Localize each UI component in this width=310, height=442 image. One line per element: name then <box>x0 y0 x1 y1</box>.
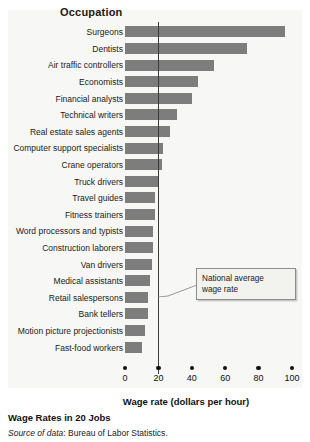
bar <box>125 43 247 54</box>
bar-category-label: Real estate sales agents <box>1 127 123 137</box>
bar-category-label: Crane operators <box>1 160 123 170</box>
bar <box>125 109 177 120</box>
bar-category-label: Technical writers <box>1 110 123 120</box>
bar-row: Fitness trainers <box>0 207 310 224</box>
bar <box>125 292 148 303</box>
bar <box>125 60 214 71</box>
x-axis-tick-dot <box>290 366 294 370</box>
bar-row: Fast-food workers <box>0 339 310 356</box>
bar-row: Dentists <box>0 41 310 58</box>
bar-row: Economists <box>0 74 310 91</box>
source-label: Source of data <box>8 428 63 438</box>
bar-row: Real estate sales agents <box>0 124 310 141</box>
bar-category-label: Computer support specialists <box>1 143 123 153</box>
bar-category-label: Air traffic controllers <box>1 60 123 70</box>
bar-row: Surgeons <box>0 24 310 41</box>
bar-category-label: Word processors and typists <box>1 226 123 236</box>
figure-source-note: Source of data: Bureau of Labor Statisti… <box>8 428 168 438</box>
bar <box>125 242 153 253</box>
bar-row: Word processors and typists <box>0 223 310 240</box>
bar-row: Travel guides <box>0 190 310 207</box>
bar <box>125 325 145 336</box>
x-axis-tick-dot <box>223 366 227 370</box>
bar <box>125 259 152 270</box>
callout-line-1: National average <box>202 273 290 284</box>
bar-category-label: Construction laborers <box>1 243 123 253</box>
x-axis-tick-label: 100 <box>277 373 307 383</box>
bar-category-label: Van drivers <box>1 260 123 270</box>
x-axis-tick-dot <box>256 366 260 370</box>
bar-category-label: Bank tellers <box>1 309 123 319</box>
bar <box>125 342 142 353</box>
bar-row: Technical writers <box>0 107 310 124</box>
bar <box>125 76 198 87</box>
bar-category-label: Economists <box>1 77 123 87</box>
bar-category-label: Medical assistants <box>1 276 123 286</box>
bar-category-label: Fast-food workers <box>1 343 123 353</box>
bar-rows-container: SurgeonsDentistsAir traffic controllersE… <box>0 24 310 356</box>
national-average-callout: National average wage rate <box>196 268 296 300</box>
bar-category-label: Retail salespersons <box>1 293 123 303</box>
source-text: : Bureau of Labor Statistics. <box>63 428 167 438</box>
bar-category-label: Dentists <box>1 44 123 54</box>
bar-category-label: Financial analysts <box>1 94 123 104</box>
callout-line-2: wage rate <box>202 284 290 295</box>
bar <box>125 126 170 137</box>
x-axis-tick-label: 0 <box>110 373 140 383</box>
bar-row: Motion picture projectionists <box>0 323 310 340</box>
x-axis-tick-label: 20 <box>143 373 173 383</box>
bar-category-label: Surgeons <box>1 27 123 37</box>
x-axis-tick-label: 80 <box>244 373 274 383</box>
x-axis-tick-label: 60 <box>210 373 240 383</box>
bar-row: Crane operators <box>0 157 310 174</box>
wage-rates-bar-chart-figure: Occupation SurgeonsDentistsAir traffic c… <box>0 0 310 442</box>
bar <box>125 226 153 237</box>
bar <box>125 26 285 37</box>
x-axis-tick-dot <box>190 366 194 370</box>
bar-category-label: Travel guides <box>1 193 123 203</box>
bar <box>125 275 150 286</box>
bar <box>125 209 155 220</box>
bar <box>125 308 148 319</box>
bar-row: Air traffic controllers <box>0 57 310 74</box>
bar-row: Financial analysts <box>0 90 310 107</box>
x-axis-tick-dot <box>123 366 127 370</box>
bar-category-label: Truck drivers <box>1 177 123 187</box>
bar <box>125 159 162 170</box>
x-axis-tick-label: 40 <box>177 373 207 383</box>
bar <box>125 192 155 203</box>
figure-caption-title: Wage Rates in 20 Jobs <box>8 412 111 423</box>
x-axis-tick-dot <box>156 366 160 370</box>
bar-row: Construction laborers <box>0 240 310 257</box>
bar-row: Computer support specialists <box>0 140 310 157</box>
x-axis-title: Wage rate (dollars per hour) <box>0 396 310 407</box>
chart-title: Occupation <box>60 6 123 18</box>
national-average-reference-line <box>158 22 159 374</box>
bar-row: Truck drivers <box>0 173 310 190</box>
bar-category-label: Motion picture projectionists <box>1 326 123 336</box>
bar-category-label: Fitness trainers <box>1 210 123 220</box>
callout-leader-line <box>158 283 197 297</box>
bar <box>125 176 158 187</box>
bar-row: Bank tellers <box>0 306 310 323</box>
